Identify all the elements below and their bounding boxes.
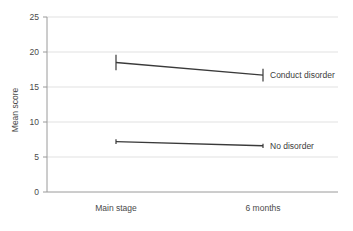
y-axis-ticks [43,17,47,192]
x-tick-label-6-months: 6 months [246,203,281,213]
y-tick-label-25: 25 [30,12,40,22]
x-tick-label-main-stage: Main stage [95,203,137,213]
chart-container: 25 20 15 10 5 0 Mean score Main stage 6 … [0,0,353,231]
series-label-conduct-disorder: Conduct disorder [270,70,335,80]
y-tick-label-15: 15 [30,82,40,92]
gridlines [47,17,338,157]
y-tick-label-0: 0 [34,187,39,197]
y-tick-label-10: 10 [30,117,40,127]
y-tick-label-5: 5 [34,152,39,162]
series-label-no-disorder: No disorder [270,141,314,151]
y-axis-title: Mean score [10,88,20,133]
series-line-no-disorder [116,142,263,146]
series-conduct-disorder [116,55,263,82]
line-chart: 25 20 15 10 5 0 Mean score Main stage 6 … [0,0,353,231]
series-no-disorder [116,139,263,148]
series-line-conduct-disorder [116,63,263,76]
y-tick-label-20: 20 [30,47,40,57]
